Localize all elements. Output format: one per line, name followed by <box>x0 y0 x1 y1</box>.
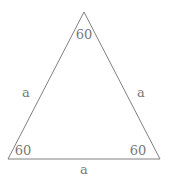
side-label-right: a <box>137 86 145 99</box>
side-label-bottom: a <box>80 163 88 176</box>
side-label-left: a <box>22 86 30 99</box>
angle-label-apex: 60 <box>76 28 93 41</box>
angle-label-bottom-right: 60 <box>130 144 147 157</box>
angle-label-bottom-left: 60 <box>15 144 32 157</box>
geometry-figure: 60 60 60 a a a <box>0 0 169 181</box>
